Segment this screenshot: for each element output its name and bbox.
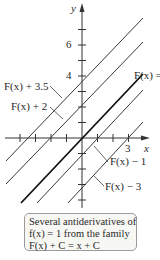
caption-line-3: F(x) + C = x + C <box>29 240 136 252</box>
antiderivative-plot: y 6 4 3 x F(x) + 3.5 F(x) + 2 F(x) = F(x… <box>0 0 160 210</box>
y-tick-label-6: 6 <box>66 38 72 50</box>
caption-box: Several antiderivatives of f(x) = 1 from… <box>24 213 137 251</box>
y-tick-label-4: 4 <box>66 69 72 81</box>
label-f-plus-3-5: F(x) + 3.5 <box>4 80 49 93</box>
label-f-plus-2: F(x) + 2 <box>11 100 47 113</box>
y-axis-label: y <box>70 2 76 14</box>
x-tick-label-3: 3 <box>125 142 131 154</box>
caption-line-2: f(x) = 1 from the family <box>29 228 136 240</box>
label-f-minus-3: F(x) − 3 <box>105 180 142 193</box>
label-f-minus-1: F(x) − 1 <box>110 155 146 168</box>
x-axis-label: x <box>143 142 149 154</box>
label-f: F(x) = <box>134 69 160 82</box>
caption-line-1: Several antiderivatives of <box>29 216 136 228</box>
